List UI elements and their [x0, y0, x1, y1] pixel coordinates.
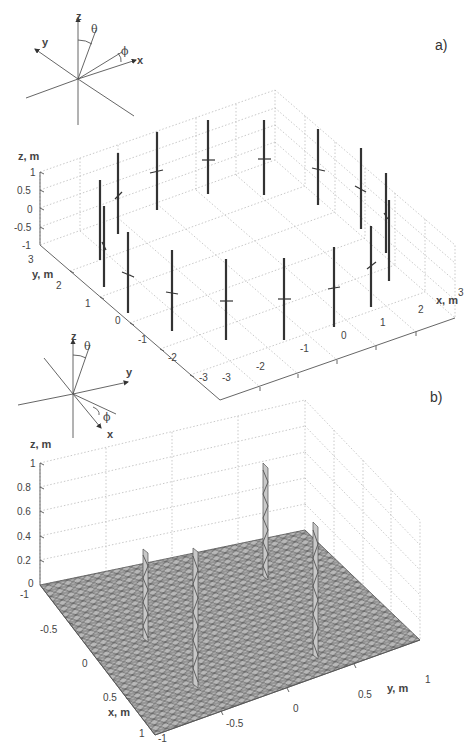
z-tick-a: 1: [30, 167, 36, 178]
z-tick-b: 0.2: [17, 555, 31, 566]
z-axis-b-label: z, m: [30, 438, 52, 450]
z-tick-b: 0.4: [17, 531, 31, 542]
y-tick-a: 1: [85, 298, 91, 309]
y-tick-a: 2: [56, 280, 62, 291]
inset-a-x-label: x: [137, 54, 144, 66]
panel-b: z θ y ϕ x b): [17, 330, 442, 744]
z-tick-b: 1: [30, 458, 36, 469]
y-tick-a: -1: [138, 334, 147, 345]
z-tick-b: 0.6: [17, 506, 31, 517]
x-axis-arrow-icon: [73, 394, 101, 428]
y-tick-a: -3: [199, 372, 208, 383]
x-tick-b: 0.5: [103, 692, 117, 703]
x-tick-a: 2: [418, 304, 424, 315]
y-tick-a: 0: [115, 315, 121, 326]
x-axis-a: [220, 318, 455, 400]
x-tick-a: -3: [222, 372, 231, 383]
x-axis-a-label: x, m: [436, 294, 458, 306]
x-tick-b: -0.5: [40, 624, 58, 635]
inset-b-x-label: x: [107, 428, 114, 440]
z-tick-a: -1: [22, 240, 31, 251]
z-tick-a: -0.5: [14, 222, 32, 233]
z-tick-b: 0.8: [17, 482, 31, 493]
y-axis-b-label: y, m: [387, 682, 408, 694]
y-tick-b: 0: [293, 703, 299, 714]
y-tick-b: 0.5: [358, 689, 372, 700]
inset-a-z-label: z: [76, 10, 82, 22]
x-tick-b: 0: [82, 658, 88, 669]
y-tick-b: -0.5: [226, 718, 244, 729]
y-tick-b: -1: [158, 733, 167, 744]
x-tick-b: 1: [139, 728, 145, 739]
ground-plane-mesh: [40, 530, 420, 735]
coord-system-inset-a: z θ y ϕ x: [26, 10, 144, 125]
inset-b-phi-label: ϕ: [103, 411, 111, 424]
panel-b-label: b): [430, 389, 442, 405]
x-axis-arrow-icon: [78, 60, 136, 79]
y-axis-arrow-icon: [35, 49, 78, 79]
axes-a: z, m 1 0.5 0 -0.5 -1 3 y, m 2 1 0 -1 -2 …: [14, 150, 464, 400]
x-tick-a: -2: [256, 361, 265, 372]
x-tick-a: 1: [380, 317, 386, 328]
inset-b-z-label: z: [71, 330, 77, 342]
x-tick-a: 3: [458, 287, 464, 298]
z-tick-a: 0.5: [17, 185, 31, 196]
x-tick-b: -1: [20, 589, 29, 600]
coord-system-inset-b: z θ y ϕ x: [18, 330, 133, 440]
panel-a: z θ y ϕ x a): [14, 10, 464, 400]
z-axis-a-label: z, m: [18, 150, 40, 162]
panel-a-label: a): [435, 37, 447, 53]
x-axis-b-label: x, m: [108, 706, 130, 718]
inset-b-theta-label: θ: [84, 340, 91, 353]
inset-a-y-label: y: [42, 36, 49, 48]
z-tick-b: 0: [28, 578, 34, 589]
x-tick-a: -1: [300, 343, 309, 354]
y-tick-a: 3: [28, 254, 34, 265]
inset-a-phi-label: ϕ: [121, 45, 129, 58]
y-axis-arrow-icon: [73, 382, 128, 394]
inset-b-y-label: y: [126, 366, 133, 378]
figure-canvas: z θ y ϕ x a): [0, 0, 472, 751]
y-tick-a: -2: [168, 352, 177, 363]
x-tick-a: 0: [341, 330, 347, 341]
y-tick-b: 1: [425, 674, 431, 685]
y-axis-a-label: y, m: [32, 268, 53, 280]
inset-a-theta-label: θ: [91, 23, 98, 36]
z-tick-a: 0: [27, 204, 33, 215]
grid-a: [40, 90, 455, 387]
